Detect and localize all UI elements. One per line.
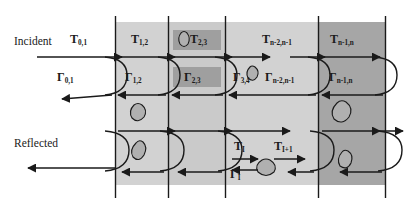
gamma-i-symbol: Γ <box>230 167 238 181</box>
t-2-3-symbol: T <box>190 32 198 46</box>
coefficient-t-2-3: T2,3 <box>190 33 207 45</box>
diagram-svg <box>0 0 407 201</box>
t-i-plus-1-subscript: I+1 <box>282 146 293 154</box>
t-i-symbol: T <box>234 139 242 153</box>
gamma-n2-n1-subscript: n-2,n-1 <box>273 77 295 85</box>
coefficient-gamma-1-2: Γ1,2 <box>125 71 142 83</box>
coefficient-gamma-0-1: Γ0,1 <box>57 71 74 83</box>
t-0-1-subscript: 0,1 <box>78 39 87 47</box>
coefficient-t-n2-n1: Tn-2,n-1 <box>262 33 292 45</box>
figure-canvas: Incident Reflected T0,1 T1,2 T2,3 Tn-2,n… <box>0 0 407 201</box>
blob-inner-center <box>257 159 276 176</box>
t-n1-n-symbol: T <box>330 32 338 46</box>
t-2-3-subscript: 2,3 <box>198 39 207 47</box>
coefficient-t-n1-n: Tn-1,n <box>330 33 354 45</box>
reflected-label: Reflected <box>14 138 58 150</box>
coefficient-gamma-2-3: Γ2,3 <box>184 71 201 83</box>
reflect-arrow-0-1 <box>62 95 112 99</box>
gamma-1-2-symbol: Γ <box>125 70 133 84</box>
gamma-n1-n-subscript: n-1,n <box>337 77 353 85</box>
gamma-3-4-symbol: Γ <box>233 70 241 84</box>
t-i-subscript: I <box>242 146 245 154</box>
incident-label: Incident <box>14 36 52 48</box>
coefficient-gamma-i: ΓI <box>230 168 240 180</box>
gamma-2-3-subscript: 2,3 <box>192 77 201 85</box>
gamma-0-1-subscript: 0,1 <box>65 77 74 85</box>
t-1-2-subscript: 1,2 <box>139 39 148 47</box>
gamma-2-3-symbol: Γ <box>184 70 192 84</box>
coefficient-t-1-2: T1,2 <box>131 33 148 45</box>
coefficient-t-0-1: T0,1 <box>70 33 87 45</box>
blob-upper-layer1 <box>130 104 145 121</box>
gamma-1-2-subscript: 1,2 <box>133 77 142 85</box>
t-n1-n-subscript: n-1,n <box>338 39 354 47</box>
t-0-1-symbol: T <box>70 32 78 46</box>
coefficient-gamma-n2-n1: Γn-2,n-1 <box>265 71 294 83</box>
gamma-n1-n-symbol: Γ <box>329 70 337 84</box>
coefficient-t-i: TI <box>234 140 245 152</box>
blob-top-layer2 <box>179 32 190 47</box>
gamma-0-1-symbol: Γ <box>57 70 65 84</box>
coefficient-gamma-3-4: Γ3,4 <box>233 71 250 83</box>
gamma-3-4-subscript: 3,4 <box>241 77 250 85</box>
t-n2-n1-subscript: n-2,n-1 <box>270 39 292 47</box>
gamma-n2-n1-symbol: Γ <box>265 70 273 84</box>
coefficient-gamma-n1-n: Γn-1,n <box>329 71 352 83</box>
t-n2-n1-symbol: T <box>262 32 270 46</box>
t-1-2-symbol: T <box>131 32 139 46</box>
t-i-plus-1-symbol: T <box>274 139 282 153</box>
coefficient-t-i-plus-1: TI+1 <box>274 140 293 152</box>
